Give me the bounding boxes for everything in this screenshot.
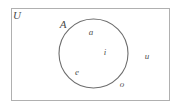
element-e: e [75, 68, 79, 77]
venn-diagram-canvas [0, 0, 181, 111]
element-i: i [104, 48, 107, 57]
set-a-label: A [60, 19, 67, 30]
universal-set-label: U [13, 10, 21, 21]
venn-diagram: U A a i e o u [0, 0, 181, 111]
element-a: a [89, 28, 94, 37]
element-u: u [145, 52, 150, 61]
element-o: o [120, 80, 125, 89]
